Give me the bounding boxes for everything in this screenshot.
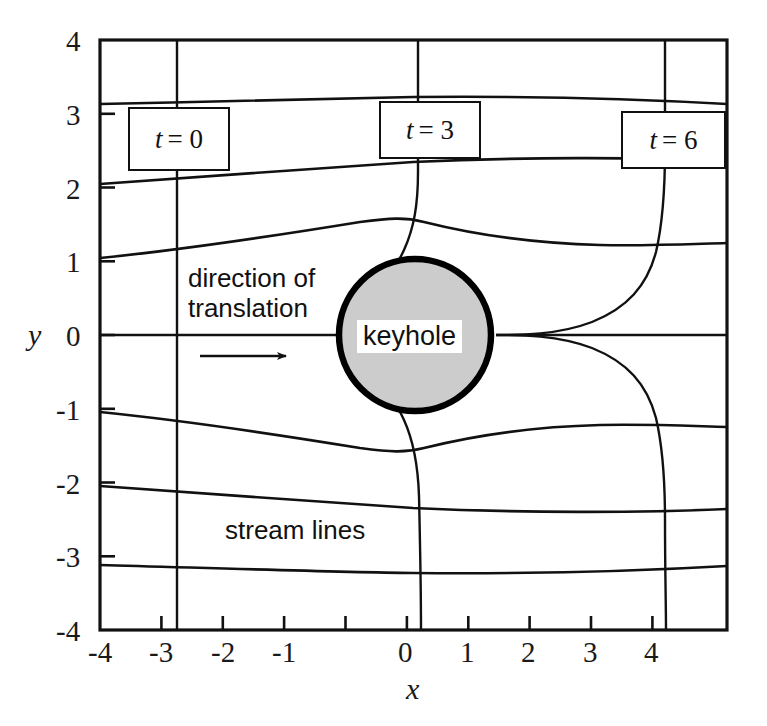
keyhole-label: keyhole (357, 320, 462, 353)
x-tick-label-1: 1 (460, 636, 475, 669)
y-axis-label: y (28, 318, 41, 352)
y-tick-label-3: 3 (66, 99, 81, 132)
x-tick-label--3: -3 (149, 636, 173, 669)
x-tick-label--2: -2 (211, 636, 235, 669)
x-tick-label-3: 3 (583, 636, 598, 669)
y-tick-label--4: -4 (56, 615, 80, 648)
direction-label-line1: direction of (188, 264, 315, 294)
y-tick-label--1: -1 (56, 394, 80, 427)
y-tick-label-2: 2 (66, 173, 81, 206)
direction-label-line2: translation (188, 294, 315, 324)
time-label-var-t3: t (406, 115, 414, 146)
x-tick-label--4: -4 (88, 636, 112, 669)
y-tick-label-1: 1 (66, 246, 81, 279)
time-label-box-t6: t= 6 (621, 111, 726, 169)
direction-of-translation-label: direction of translation (188, 264, 315, 324)
x-tick-label-2: 2 (521, 636, 536, 669)
x-tick-label--1: -1 (272, 636, 296, 669)
stream-lines-label: stream lines (225, 516, 365, 546)
x-axis-label: x (406, 672, 419, 706)
y-tick-label-4: 4 (66, 25, 81, 58)
time-label-eq-t0: = 0 (168, 124, 203, 155)
x-tick-label-0: 0 (398, 636, 413, 669)
y-tick-label--2: -2 (56, 468, 80, 501)
time-label-var-t0: t (155, 124, 163, 155)
y-tick-label--3: -3 (56, 541, 80, 574)
time-label-box-t3: t= 3 (379, 101, 481, 159)
time-label-var-t6: t (650, 125, 658, 156)
time-label-eq-t6: = 6 (662, 125, 697, 156)
time-label-eq-t3: = 3 (419, 115, 454, 146)
x-tick-label-4: 4 (644, 636, 659, 669)
y-tick-label-0: 0 (66, 320, 81, 353)
time-label-box-t0: t= 0 (128, 107, 230, 171)
